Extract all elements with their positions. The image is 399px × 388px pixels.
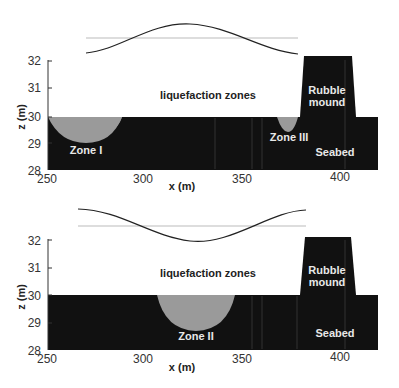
xtick: 300 [133, 352, 153, 366]
xtick: 350 [232, 172, 252, 186]
wave-profile [86, 24, 298, 54]
xtick: 400 [330, 170, 350, 184]
label-zone-ii: Zone II [178, 330, 213, 342]
liquefaction-diagram: 32 31 30 29 28 z (m) 250 300 350 400 x (… [0, 0, 399, 388]
label-rubble: Rubble [308, 264, 345, 276]
annotation-liquefaction-zones: liquefaction zones [160, 89, 256, 101]
ytick: 30 [28, 110, 42, 124]
ytick: 32 [28, 234, 42, 248]
annotation-liquefaction-zones: liquefaction zones [160, 267, 256, 279]
bottom-panel: 32 31 30 29 28 z (m) 250 300 350 400 x (… [15, 209, 378, 373]
label-seabed: Seabed [315, 327, 354, 339]
xtick: 300 [133, 172, 153, 186]
y-axis-label: z (m) [15, 284, 27, 310]
label-rubble: Rubble [308, 84, 345, 96]
label-mound: mound [309, 276, 346, 288]
xtick: 350 [232, 352, 252, 366]
ytick: 31 [28, 81, 42, 95]
y-axis-label: z (m) [15, 104, 27, 130]
xtick: 250 [37, 352, 57, 366]
ytick: 29 [28, 316, 42, 330]
xtick: 400 [330, 350, 350, 364]
label-mound: mound [309, 96, 346, 108]
top-panel: 32 31 30 29 28 z (m) 250 300 350 400 x (… [15, 24, 378, 192]
ytick: 31 [28, 261, 42, 275]
x-axis-label: x (m) [169, 180, 196, 192]
wave-profile [78, 209, 306, 241]
x-axis-label: x (m) [169, 361, 196, 373]
label-zone-i: Zone I [70, 144, 102, 156]
label-seabed: Seabed [315, 146, 354, 158]
ytick: 29 [28, 137, 42, 151]
ytick: 32 [28, 54, 42, 68]
ytick: 30 [28, 289, 42, 303]
xtick: 250 [37, 172, 57, 186]
label-zone-iii: Zone III [270, 131, 309, 143]
